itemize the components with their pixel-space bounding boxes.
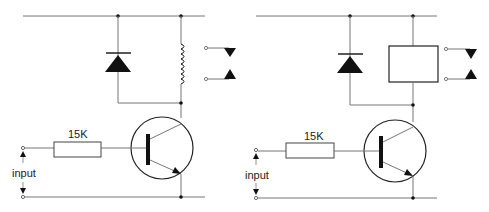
input-terminal: [254, 148, 257, 151]
contact-terminal: [444, 77, 447, 80]
input-arrow-down-icon: [253, 189, 259, 195]
resistor-icon: [286, 143, 334, 158]
contact-terminal: [204, 77, 207, 80]
emitter-arrow-icon: [172, 167, 181, 174]
junction-dot: [411, 103, 415, 107]
input-label: input: [245, 169, 269, 181]
junction-dot: [179, 195, 183, 199]
relay-box-icon: [389, 46, 438, 82]
input-arrow-down-icon: [20, 188, 26, 194]
contact-terminal: [444, 47, 447, 50]
circuit-left: 15K input: [12, 14, 236, 199]
emitter-arrow-icon: [404, 169, 413, 176]
contact-triangle-icon: [465, 69, 477, 79]
input-label: input: [12, 167, 36, 179]
contact-terminal: [204, 46, 207, 49]
resistor-label: 15K: [68, 128, 88, 140]
input-arrow-up-icon: [253, 153, 259, 159]
junction-dot: [411, 196, 415, 200]
circuit-right: 15K input: [245, 14, 477, 200]
inductor-coil-icon: [181, 44, 184, 84]
circuit-diagram: 15K input: [0, 0, 489, 212]
resistor-icon: [54, 142, 101, 157]
input-terminal: [21, 146, 24, 149]
input-terminal: [254, 196, 257, 199]
transistor-base-bar: [379, 136, 383, 168]
contact-triangle-icon: [224, 69, 236, 79]
contact-triangle-icon: [224, 48, 236, 57]
contact-triangle-icon: [465, 49, 477, 59]
transistor-base-bar: [146, 134, 150, 165]
input-arrow-up-icon: [20, 151, 26, 157]
transistor-collector: [150, 124, 181, 139]
junction-dot: [179, 101, 183, 105]
resistor-label: 15K: [304, 130, 324, 142]
diode-icon: [337, 56, 363, 73]
diode-icon: [105, 55, 131, 72]
input-terminal: [21, 195, 24, 198]
transistor-collector: [383, 127, 413, 142]
